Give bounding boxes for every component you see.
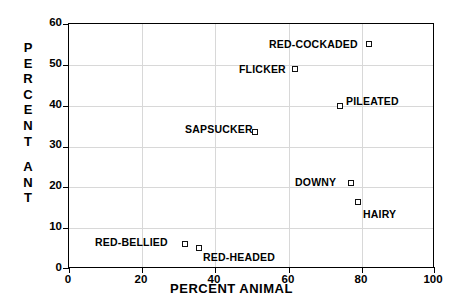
y-axis-title-char-2: E xyxy=(24,56,33,71)
plot-area: RED-COCKADED FLICKER PILEATED SAPSUCKER … xyxy=(68,23,434,268)
gridline-x-80 xyxy=(362,24,363,267)
tick-y-10 xyxy=(63,228,69,229)
point-label-red-bellied: RED-BELLIED xyxy=(95,237,168,248)
tick-y-20 xyxy=(63,187,69,188)
point-label-flicker: FLICKER xyxy=(239,64,286,75)
gridline-y-20 xyxy=(69,187,433,188)
y-tick-label-40: 40 xyxy=(34,99,62,110)
point-label-pileated: PILEATED xyxy=(346,96,399,107)
y-axis-title-char-9: N xyxy=(23,175,32,190)
data-point-pileated xyxy=(337,103,343,109)
gridline-x-20 xyxy=(142,24,143,267)
data-point-hairy xyxy=(355,199,361,205)
tick-y-50 xyxy=(63,65,69,66)
gridline-x-40 xyxy=(215,24,216,267)
data-point-flicker xyxy=(292,66,298,72)
gridline-x-60 xyxy=(289,24,290,267)
data-point-red-bellied xyxy=(182,241,188,247)
tick-y-60 xyxy=(63,24,69,25)
y-tick-label-0: 0 xyxy=(34,262,62,273)
tick-y-30 xyxy=(63,147,69,148)
y-tick-label-10: 10 xyxy=(34,221,62,232)
y-axis-title-char-5: E xyxy=(24,102,33,117)
y-tick-label-30: 30 xyxy=(34,139,62,150)
data-point-red-cockaded xyxy=(366,41,372,47)
y-axis-title-char-7: T xyxy=(24,134,32,149)
x-axis-title: PERCENT ANIMAL xyxy=(0,281,463,296)
y-axis-title-char-4: C xyxy=(23,87,32,102)
y-tick-label-20: 20 xyxy=(34,180,62,191)
point-label-red-cockaded: RED-COCKADED xyxy=(269,39,358,50)
point-label-sapsucker: SAPSUCKER xyxy=(185,124,253,135)
point-label-hairy: HAIRY xyxy=(363,209,396,220)
data-point-red-headed xyxy=(196,245,202,251)
gridline-y-30 xyxy=(69,147,433,148)
y-tick-label-60: 60 xyxy=(34,17,62,28)
scatter-plot-figure: RED-COCKADED FLICKER PILEATED SAPSUCKER … xyxy=(0,0,463,303)
y-axis-title-char-1: P xyxy=(24,40,33,55)
y-axis-title-word-gap xyxy=(18,149,38,159)
y-axis-title-char-6: N xyxy=(23,118,32,133)
y-axis-title-char-10: T xyxy=(24,190,32,205)
point-label-red-headed: RED-HEADED xyxy=(203,252,275,263)
point-label-downy: DOWNY xyxy=(295,177,336,188)
y-tick-label-50: 50 xyxy=(34,58,62,69)
tick-y-40 xyxy=(63,106,69,107)
y-axis-title-char-8: A xyxy=(23,159,32,174)
data-point-downy xyxy=(348,180,354,186)
y-axis-title-char-3: R xyxy=(23,71,32,86)
y-axis-title: P E R C E N T A N T xyxy=(18,40,38,206)
gridline-y-10 xyxy=(69,228,433,229)
